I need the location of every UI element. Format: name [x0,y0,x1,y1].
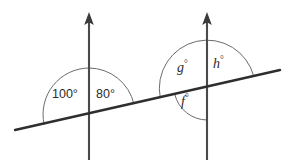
geometry-diagram-container: 100° 80° g° h° f° [0,0,291,168]
angle-label-f-degree: ° [185,93,189,103]
angle-label-g-degree: ° [184,59,188,69]
angle-label-h-letter: h [213,56,220,71]
angle-label-h: h° [213,55,224,71]
angle-label-f: f° [181,93,189,109]
angle-label-80: 80° [96,87,115,101]
geometry-figure: 100° 80° g° h° f° [0,0,291,168]
angle-label-h-degree: ° [220,55,224,65]
angle-label-100: 100° [52,87,78,101]
angle-label-g: g° [177,59,188,75]
arc-angle-f [175,94,207,120]
angle-label-g-letter: g [177,60,184,75]
